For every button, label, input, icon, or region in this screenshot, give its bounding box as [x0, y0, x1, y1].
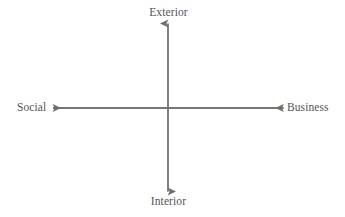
- axes-diagram: Exterior Interior Social Business: [0, 0, 345, 217]
- axis-label-business: Business: [287, 101, 329, 114]
- axis-label-interior: Interior: [0, 195, 341, 208]
- axis-label-social: Social: [17, 101, 46, 114]
- axis-label-exterior: Exterior: [0, 6, 341, 19]
